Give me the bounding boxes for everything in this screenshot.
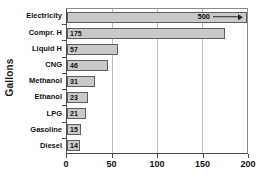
x-axis-tick-label: 150 bbox=[195, 160, 210, 169]
category-label: LPG bbox=[16, 105, 66, 121]
x-axis-tick-labels: 050100150200 bbox=[66, 160, 248, 174]
category-label: Compr. H bbox=[16, 24, 66, 40]
bar[interactable]: 21 bbox=[67, 108, 86, 119]
category-label: Diesel bbox=[16, 138, 66, 154]
category-label: Electricity bbox=[16, 8, 66, 24]
bar-value-label: 57 bbox=[70, 46, 78, 53]
plot-area: 50017557463123211514 bbox=[66, 8, 248, 154]
overflow-annotation: 500 bbox=[197, 13, 243, 21]
category-label: Liquid H bbox=[16, 40, 66, 56]
bar[interactable]: 15 bbox=[67, 124, 81, 135]
bar-slot: 23 bbox=[67, 89, 247, 105]
x-axis-tick bbox=[112, 154, 113, 158]
bar-value-label: 31 bbox=[70, 78, 78, 85]
bar-slot: 500 bbox=[67, 9, 247, 25]
bar[interactable]: 57 bbox=[67, 44, 118, 55]
bar[interactable]: 14 bbox=[67, 140, 80, 151]
bar-value-label: 14 bbox=[70, 142, 78, 149]
bar-slot: 175 bbox=[67, 25, 247, 41]
x-axis-tick-label: 0 bbox=[63, 160, 68, 169]
category-label: Methanol bbox=[16, 73, 66, 89]
bar-slot: 15 bbox=[67, 121, 247, 137]
bar-value-label: 175 bbox=[70, 30, 82, 37]
overflow-arrow-icon bbox=[213, 14, 243, 21]
bar-slot: 31 bbox=[67, 73, 247, 89]
x-axis-tick bbox=[203, 154, 204, 158]
bar-chart: Gallons ElectricityCompr. HLiquid HCNGMe… bbox=[0, 0, 270, 181]
bar-series: 50017557463123211514 bbox=[67, 9, 247, 153]
category-label: CNG bbox=[16, 57, 66, 73]
bar-value-label: 15 bbox=[70, 126, 78, 133]
x-axis-tick-label: 50 bbox=[106, 160, 116, 169]
bar-slot: 21 bbox=[67, 105, 247, 121]
category-label: Gasoline bbox=[16, 122, 66, 138]
bar-value-label: 46 bbox=[70, 62, 78, 69]
x-axis-tick-label: 200 bbox=[240, 160, 255, 169]
x-axis-tick-label: 100 bbox=[149, 160, 164, 169]
y-axis-title-text: Gallons bbox=[4, 58, 15, 96]
category-axis: ElectricityCompr. HLiquid HCNGMethanolEt… bbox=[16, 8, 66, 154]
bar[interactable]: 500 bbox=[67, 12, 247, 23]
bar[interactable]: 23 bbox=[67, 92, 88, 103]
bar[interactable]: 175 bbox=[67, 28, 225, 39]
x-axis-tick bbox=[157, 154, 158, 158]
bar[interactable]: 46 bbox=[67, 60, 108, 71]
bar-slot: 57 bbox=[67, 41, 247, 57]
overflow-value-label: 500 bbox=[197, 13, 210, 21]
bar-slot: 46 bbox=[67, 57, 247, 73]
bar[interactable]: 31 bbox=[67, 76, 95, 87]
x-axis-tick bbox=[66, 154, 67, 158]
x-axis-tick bbox=[248, 154, 249, 158]
bar-value-label: 23 bbox=[70, 94, 78, 101]
category-label: Ethanol bbox=[16, 89, 66, 105]
bar-value-label: 21 bbox=[70, 110, 78, 117]
bar-slot: 14 bbox=[67, 137, 247, 153]
